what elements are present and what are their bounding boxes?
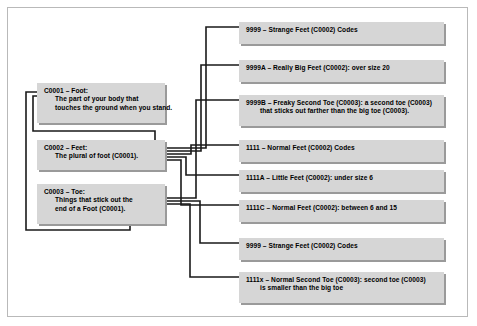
code-line: is smaller than the big toe [246,284,438,292]
code-node-9999B[interactable]: 9999B – Freaky Second Toe (C0003): a sec… [239,95,444,126]
definition-line: Things that stick out the [44,196,159,204]
definition-node-c0001[interactable]: C0001 – Foot: The part of your body that… [37,83,165,123]
code-node-9999-bottom[interactable]: 9999 – Strange Feet (C0002) Codes [239,238,444,260]
definition-line: touches the ground when you stand. [44,104,159,112]
code-line: 9999A – Really Big Feet (C0002): over si… [246,64,438,72]
code-node-1111x[interactable]: 1111x – Normal Second Toe (C0003): secon… [239,272,444,303]
definition-node-c0002[interactable]: C0002 – Feet: The plural of foot (C0001)… [37,140,165,170]
definition-line: The plural of foot (C0001). [44,152,159,160]
definition-node-c0003[interactable]: C0003 – Toe: Things that stick out the e… [37,184,165,224]
definition-heading: C0003 – Toe: [44,188,159,196]
code-line: 1111 – Normal Feet (C0002) Codes [246,144,438,152]
code-node-1111[interactable]: 1111 – Normal Feet (C0002) Codes [239,140,444,162]
code-node-1111A[interactable]: 1111A – Little Feet (C0002): under size … [239,170,444,192]
wire-c0002-to-9999-top [164,27,298,148]
code-line: 9999 – Strange Feet (C0002) Codes [246,26,438,34]
code-line: 9999 – Strange Feet (C0002) Codes [246,242,438,250]
code-line: 9999B – Freaky Second Toe (C0003): a sec… [246,99,438,107]
definition-heading: C0001 – Foot: [44,87,159,95]
code-node-1111C[interactable]: 1111C – Normal Feet (C0002): between 6 a… [239,200,444,222]
code-line: 1111x – Normal Second Toe (C0003): secon… [246,276,438,284]
code-line: 1111A – Little Feet (C0002): under size … [246,174,438,182]
diagram-canvas: C0001 – Foot: The part of your body that… [0,0,477,326]
code-node-9999-top[interactable]: 9999 – Strange Feet (C0002) Codes [239,22,444,44]
code-node-9999A[interactable]: 9999A – Really Big Feet (C0002): over si… [239,60,444,82]
code-line: that sticks out farther than the big toe… [246,107,438,115]
definition-line: end of a Foot (C0001). [44,205,159,213]
code-line: 1111C – Normal Feet (C0002): between 6 a… [246,204,438,212]
definition-heading: C0002 – Feet: [44,144,159,152]
definition-line: The part of your body that [44,95,159,103]
